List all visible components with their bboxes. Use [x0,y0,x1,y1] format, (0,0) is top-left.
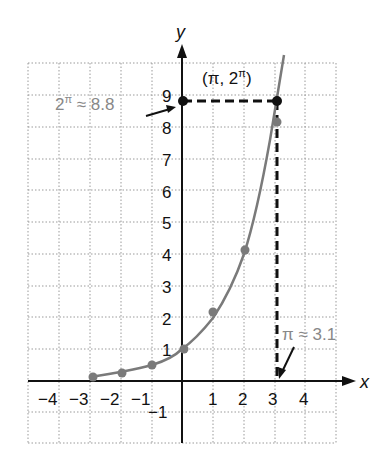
data-point [209,308,218,317]
exponential-graph: x y −4 −3 −2 −1 1 2 3 4 −1 1 2 3 4 5 6 7… [0,0,389,466]
y-tick: 8 [162,119,171,138]
data-point [241,246,250,255]
data-point [180,345,189,354]
data-point [118,369,127,378]
y-tick: 4 [162,246,171,265]
x-tick: −3 [69,390,88,409]
y-annotation-arrow [146,109,170,116]
y-tick: 7 [162,151,171,170]
y-tick: −1 [148,403,167,422]
y-axis-arrow-icon [177,44,187,58]
y-annotation: 2π ≈ 8.8 [55,93,114,114]
data-point [89,373,98,382]
x-annotation-arrow [282,347,294,372]
y-tick: 5 [162,214,171,233]
x-tick: −2 [100,390,119,409]
x-tick: −4 [38,390,57,409]
y-tick: 9 [162,87,171,106]
x-tick-labels: −4 −3 −2 −1 1 2 3 4 [38,390,308,409]
pi-guides [183,101,277,381]
x-axis-arrow-icon [342,376,356,386]
y-tick: 2 [162,310,171,329]
y-tick: 6 [162,183,171,202]
data-points [89,118,282,382]
x-tick: 2 [238,390,247,409]
x-annotation-arrowhead-icon [278,367,286,379]
x-axis-label: x [359,372,370,392]
x-tick: 1 [208,390,217,409]
y-axis-label: y [174,22,186,42]
data-point [148,361,157,370]
data-point [273,118,282,127]
x-annotation: π ≈ 3.1 [282,325,336,344]
y-annotation-arrowhead-icon [166,105,176,113]
y-tick: 3 [162,278,171,297]
x-tick: 3 [268,390,277,409]
pi-point-marker [272,96,282,106]
y-axis-marker [178,96,188,106]
x-tick: 4 [299,390,308,409]
